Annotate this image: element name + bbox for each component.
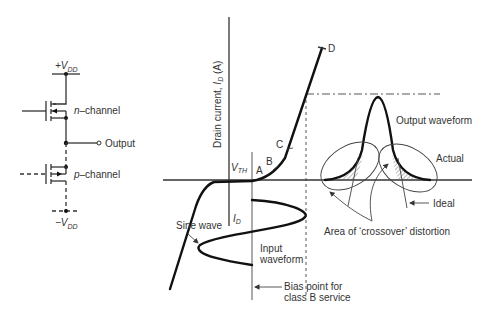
negative-supply-label: −VDD (55, 217, 78, 230)
ideal-label: Ideal (433, 198, 455, 209)
p-channel-arrow-icon (57, 172, 62, 177)
point-c-label: C (276, 139, 283, 150)
complementary-mosfet-circuit: +VDD n–channel Output (20, 60, 135, 230)
input-waveform-label-line2: waveform (259, 254, 303, 265)
transfer-characteristic-graph: Drain current, ID (A) A B C D VTH ID Sin… (163, 17, 472, 303)
output-label: Output (105, 138, 135, 149)
bias-point-label-line2: class B service (284, 292, 351, 303)
output-waveform-label: Output waveform (396, 115, 472, 126)
crossover-ellipse-left (312, 132, 387, 200)
output-terminal (97, 141, 101, 145)
threshold-voltage-label: VTH (231, 162, 248, 174)
class-b-amplifier-diagram: +VDD n–channel Output (0, 0, 488, 316)
input-waveform-label-line1: Input (260, 243, 282, 254)
point-b-label: B (266, 156, 273, 167)
actual-label: Actual (436, 153, 464, 164)
positive-supply-label: +VDD (55, 60, 78, 73)
n-channel-arrow-icon (52, 109, 57, 114)
y-axis-label: Drain current, ID (A) (212, 61, 224, 148)
p-channel-mosfet-symbol (20, 164, 66, 184)
point-d-label: D (328, 43, 335, 54)
ideal-line-right (398, 158, 407, 208)
p-channel-label: p–channel (73, 169, 120, 180)
sine-wave-label: Sine wave (176, 220, 223, 231)
output-waveform (325, 97, 430, 180)
sine-wave-pointer (188, 234, 198, 243)
crossover-ellipse-right (370, 134, 445, 202)
ideal-line-left (348, 158, 358, 206)
crossover-pointer-left (330, 192, 372, 221)
n-mosfet-drain-wire (53, 74, 66, 104)
crossover-distortion-label: Area of ‘crossover’ distortion (324, 226, 450, 237)
point-a-label: A (256, 165, 263, 176)
n-channel-label: n–channel (74, 105, 120, 116)
bias-point-label-line1: Bias point for (284, 281, 343, 292)
drain-current-symbol-label: ID (233, 213, 241, 225)
